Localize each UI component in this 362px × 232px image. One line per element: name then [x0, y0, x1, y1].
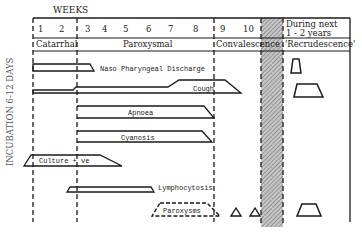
weeks-label: WEEKS — [53, 5, 88, 15]
paroxysm-triangle-1 — [231, 208, 241, 216]
week-7: 7 — [168, 24, 173, 34]
cyanosis-bar: Cyanosis — [77, 131, 212, 142]
recrudescence-cough-trapezoid — [294, 84, 323, 97]
recrudescence-naso-trapezoid — [291, 59, 301, 73]
lymphocytosis-label: Lymphocytosis — [158, 184, 213, 192]
hatched-interval-band — [261, 18, 283, 227]
paroxysms-label: Paroxysms — [163, 207, 201, 215]
later-label-line2: 1 - 2 years — [286, 28, 331, 38]
stage-convalescence: Convalescence — [216, 39, 280, 49]
apnoea-label: Apnoea — [128, 109, 153, 117]
stage-catarrhal: Catarrhal — [36, 39, 78, 49]
week-3: 3 — [85, 24, 90, 34]
culture-bar: Culture + ve — [24, 155, 122, 166]
incubation-label: INCUBATION 6-12 DAYS — [5, 57, 15, 166]
apnoea-bar: Apnoea — [77, 106, 214, 118]
week-10: 10 — [243, 24, 254, 34]
naso-label: Naso Pharyngeal Discharge — [100, 65, 205, 73]
cyanosis-label: Cyanosis — [121, 134, 155, 142]
week-4: 4 — [102, 24, 107, 34]
week-9: 9 — [220, 24, 225, 34]
culture-label: Culture + ve — [39, 157, 89, 165]
week-2: 2 — [59, 24, 64, 34]
cough-bar: Cough — [33, 80, 241, 93]
naso-pharyngeal-bar: Naso Pharyngeal Discharge — [33, 64, 205, 73]
recrudescence-paroxysm-trapezoid — [297, 204, 321, 216]
week-8: 8 — [193, 24, 198, 34]
week-numbers: 1 2 3 4 5 6 7 8 9 10 — [38, 24, 254, 34]
lymphocytosis-bar: Lymphocytosis — [67, 184, 213, 192]
stage-paroxysmal: Paroxysmal — [123, 39, 173, 49]
cough-label: Cough — [193, 85, 214, 93]
stage-labels: Catarrhal Paroxysmal Convalescence 'Recr… — [36, 39, 355, 49]
week-5: 5 — [123, 24, 128, 34]
paroxysms-bar: Paroxysms — [152, 203, 220, 216]
pertussis-timeline-diagram: WEEKS 1 2 3 4 5 6 7 8 9 10 During next 1… — [0, 0, 362, 232]
paroxysm-triangle-2 — [250, 208, 260, 216]
week-1: 1 — [38, 24, 43, 34]
week-dividers — [33, 18, 283, 225]
stage-recrudescence: 'Recrudescence' — [285, 39, 355, 49]
week-6: 6 — [146, 24, 151, 34]
